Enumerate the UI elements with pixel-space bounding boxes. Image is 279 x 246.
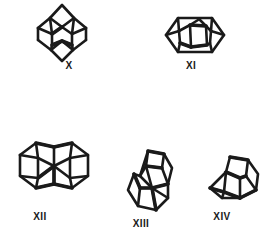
structure-x-skeleton bbox=[34, 2, 90, 64]
structure-xii-label: XII bbox=[28, 211, 52, 222]
structure-xiv-label: XIV bbox=[209, 211, 235, 222]
structure-x-label: X bbox=[60, 60, 78, 71]
structure-xii-skeleton bbox=[14, 136, 98, 200]
structure-x bbox=[34, 2, 90, 64]
structure-xi-label: XI bbox=[181, 60, 201, 71]
structure-xiii bbox=[120, 148, 184, 214]
structure-xii bbox=[14, 136, 98, 200]
structure-xiii-label: XIII bbox=[128, 218, 154, 229]
structure-xiv bbox=[206, 154, 264, 210]
structure-xiii-skeleton bbox=[120, 148, 184, 214]
structure-xi bbox=[164, 14, 226, 58]
structure-xiv-skeleton bbox=[206, 154, 264, 210]
structure-xi-skeleton bbox=[164, 14, 226, 58]
figure-canvas: X bbox=[0, 0, 279, 246]
